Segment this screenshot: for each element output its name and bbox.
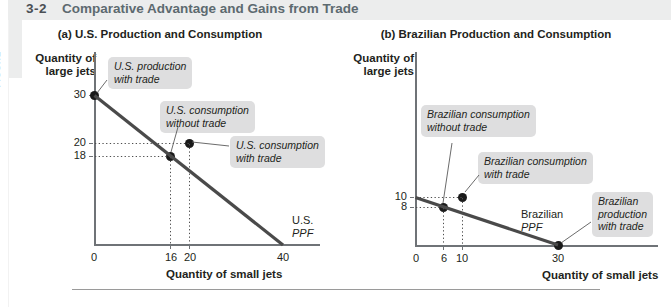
y-tick-label-us-20: 20 <box>56 136 86 148</box>
callout-us-consumption-without-trade-line2: without trade <box>166 117 249 130</box>
y-tick-label-brazil-8: 8 <box>377 200 407 212</box>
point-brazil-production-with-trade <box>554 241 563 250</box>
callout-brazilian-consumption-without-trade-line1: Brazilian consumption <box>427 108 530 121</box>
callout-brazilian-consumption-with-trade-line2: with trade <box>484 168 587 181</box>
point-brazil-consumption-without-trade <box>439 203 448 212</box>
callout-brazilian-production-with-trade-line3: with trade <box>598 220 647 233</box>
x-tick-us-20 <box>189 245 190 249</box>
x-tick-brazil-10 <box>462 246 463 250</box>
x-tick-label-brazil-30: 30 <box>544 252 572 264</box>
y-axis-title-brazil-line2: large jets <box>340 65 414 78</box>
x-tick-label-brazil-0: 0 <box>402 252 430 264</box>
x-tick-brazil-6 <box>443 246 444 250</box>
callout-us-production-with-trade-line2: with trade <box>114 73 186 86</box>
y-tick-us-20 <box>89 143 93 144</box>
point-us-production-with-trade <box>90 91 99 100</box>
callout-brazilian-consumption-without-trade-line2: without trade <box>427 121 530 134</box>
point-us-consumption-with-trade <box>185 139 194 148</box>
point-brazil-consumption-with-trade <box>458 193 467 202</box>
y-tick-us-18 <box>89 156 93 157</box>
y-axis-title-us-line1: Quantity of <box>18 52 96 65</box>
callout-brazilian-consumption-without-trade: Brazilian consumption without trade <box>421 105 536 137</box>
x-axis-brazil <box>415 245 658 247</box>
callout-us-consumption-without-trade: U.S. consumption without trade <box>160 101 255 133</box>
x-axis-us <box>94 244 320 246</box>
callout-us-consumption-with-trade-line2: with trade <box>236 152 319 165</box>
callout-us-consumption-without-trade-line1: U.S. consumption <box>166 104 249 117</box>
x-tick-label-us-20: 20 <box>176 251 204 263</box>
x-tick-label-brazil-10: 10 <box>448 252 476 264</box>
callout-us-production-with-trade: U.S. production with trade <box>108 57 192 89</box>
y-tick-brazil-8 <box>410 207 414 208</box>
callout-brazilian-production-with-trade: Brazilian production with trade <box>592 192 653 237</box>
us-ppf-label: U.S. PPF <box>292 214 313 239</box>
x-axis-title-brazil: Quantity of small jets <box>542 269 658 281</box>
point-us-consumption-without-trade <box>166 152 175 161</box>
brazil-ppf-label-line2: PPF <box>521 221 563 234</box>
callout-us-consumption-with-trade-line1: U.S. consumption <box>236 139 319 152</box>
callout-brazilian-production-with-trade-line1: Brazilian <box>598 195 647 208</box>
y-axis-brazil <box>415 52 417 246</box>
y-axis-title-brazil: Quantity of large jets <box>340 52 414 78</box>
x-axis-title-us: Quantity of small jets <box>166 268 282 280</box>
callout-brazilian-consumption-with-trade: Brazilian consumption with trade <box>478 152 593 184</box>
us-ppf-label-line1: U.S. <box>292 214 313 226</box>
x-tick-us-16 <box>170 245 171 249</box>
callout-us-production-with-trade-line1: U.S. production <box>114 60 186 73</box>
y-tick-label-us-18: 18 <box>56 149 86 161</box>
x-tick-label-us-40: 40 <box>269 251 297 263</box>
callout-us-consumption-with-trade: U.S. consumption with trade <box>230 136 325 168</box>
y-axis-title-us-line2: large jets <box>18 65 96 78</box>
us-ppf-label-line2: PPF <box>292 227 313 240</box>
callout-brazilian-production-with-trade-line2: production <box>598 208 647 221</box>
y-axis-us <box>94 52 96 245</box>
panel-brazil-title: (b) Brazilian Production and Consumption <box>346 28 646 40</box>
x-tick-label-us-0: 0 <box>80 251 108 263</box>
y-axis-title-us: Quantity of large jets <box>18 52 96 78</box>
y-axis-title-brazil-line1: Quantity of <box>340 52 414 65</box>
bottom-divider-rule <box>72 289 600 290</box>
y-tick-label-us-30: 30 <box>56 88 86 100</box>
y-tick-brazil-10 <box>410 197 414 198</box>
brazil-ppf-label: Brazilian PPF <box>521 208 563 233</box>
panel-us-title: (a) U.S. Production and Consumption <box>10 28 310 40</box>
brazil-ppf-label-line1: Brazilian <box>521 208 563 220</box>
callout-brazilian-consumption-with-trade-line1: Brazilian consumption <box>484 155 587 168</box>
